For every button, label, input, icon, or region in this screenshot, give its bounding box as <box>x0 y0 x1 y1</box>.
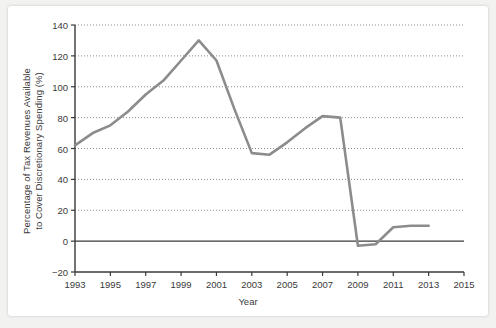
x-tick-label-1993: 1993 <box>64 279 85 290</box>
x-tick-label-2001: 2001 <box>206 279 227 290</box>
x-tick-label-1997: 1997 <box>135 279 156 290</box>
y-tick-label-20: 20 <box>34 205 68 216</box>
y-tick-label-60: 60 <box>34 143 68 154</box>
x-tick-label-1995: 1995 <box>100 279 121 290</box>
y-tick-label-140: 140 <box>34 20 68 31</box>
x-tick-label-2011: 2011 <box>383 279 403 290</box>
line-chart-figure: Percentage of Tax Revenues Available to … <box>0 0 496 328</box>
y-axis-label-line-1: Percentage of Tax Revenues Available <box>21 68 32 234</box>
y-tick-label-80: 80 <box>34 112 68 123</box>
screenshot-page: Percentage of Tax Revenues Available to … <box>0 0 496 328</box>
x-tick-label-2013: 2013 <box>418 279 439 290</box>
y-tick-label--20: −20 <box>34 267 68 278</box>
x-tick-label-2005: 2005 <box>277 279 298 290</box>
y-tick-label-120: 120 <box>34 50 68 61</box>
x-axis-label: Year <box>0 296 496 307</box>
y-tick-label-0: 0 <box>34 236 68 247</box>
x-tick-label-2007: 2007 <box>312 279 333 290</box>
x-tick-label-1999: 1999 <box>171 279 192 290</box>
x-tick-label-2015: 2015 <box>453 279 474 290</box>
x-tick-label-2003: 2003 <box>241 279 262 290</box>
y-tick-label-100: 100 <box>34 81 68 92</box>
series-line-0 <box>75 40 429 245</box>
x-tick-label-2009: 2009 <box>347 279 368 290</box>
y-tick-label-40: 40 <box>34 174 68 185</box>
